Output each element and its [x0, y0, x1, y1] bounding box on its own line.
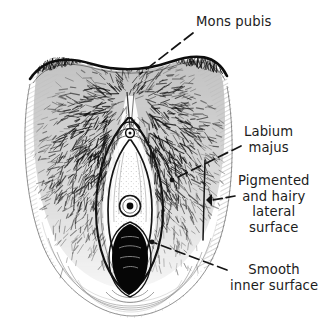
leader-smooth-inner-surface [155, 243, 227, 270]
label-pigmented-lateral-surface: Pigmented and hairy lateral surface [238, 173, 310, 235]
leader-mons-pubis [140, 33, 193, 74]
label-line: Labium [244, 124, 293, 139]
label-mons-pubis: Mons pubis [196, 14, 272, 30]
label-line: surface [249, 220, 298, 235]
label-smooth-inner-surface: Smooth inner surface [230, 262, 318, 293]
leader-dot-smooth-inner-surface [150, 240, 155, 245]
label-labium-majus: Labium majus [244, 124, 293, 155]
label-line: lateral [252, 204, 295, 219]
anatomical-figure: Mons pubis Labium majus Pigmented and ha… [0, 0, 319, 332]
leader-arrow-pigmented-surface [206, 194, 212, 206]
leader-labium-majus [174, 146, 241, 179]
label-line: Pigmented [238, 173, 310, 188]
label-line: majus [248, 140, 288, 155]
label-line: and hairy [242, 189, 305, 204]
label-line: inner surface [230, 278, 318, 293]
leader-pigmented-surface [213, 196, 235, 200]
leader-dot-labium-majus [170, 178, 175, 183]
label-line: Smooth [248, 262, 299, 277]
bracket-pigmented-surface [203, 160, 205, 240]
